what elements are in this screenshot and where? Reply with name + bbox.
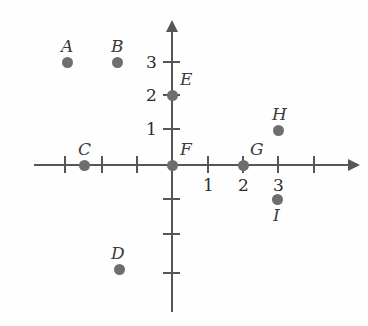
point-g <box>238 160 249 171</box>
x-tick--2 <box>101 156 103 173</box>
x-axis-arrow-icon <box>348 159 360 171</box>
coordinate-plane-figure: 1 2 3 1 2 3 A B C D E F G H I <box>0 0 368 326</box>
x-tick-3 <box>277 156 279 173</box>
point-i <box>272 194 283 205</box>
point-label-d: D <box>111 245 125 262</box>
y-tick--1 <box>163 198 180 200</box>
point-label-a: A <box>61 38 73 55</box>
point-h <box>273 125 284 136</box>
point-b <box>112 57 123 68</box>
x-tick-label-1: 1 <box>203 177 214 194</box>
point-label-i: I <box>273 207 280 224</box>
point-label-h: H <box>272 106 287 123</box>
point-a <box>62 57 73 68</box>
y-tick-label-3: 3 <box>146 54 157 71</box>
y-axis-line <box>171 32 173 312</box>
point-f <box>167 160 178 171</box>
x-tick-4 <box>313 156 315 173</box>
point-label-b: B <box>111 38 124 55</box>
point-label-e: E <box>180 71 192 88</box>
y-tick--2 <box>163 233 180 235</box>
point-label-c: C <box>78 141 91 158</box>
y-tick-label-2: 2 <box>146 87 157 104</box>
y-tick--3 <box>163 272 180 274</box>
x-tick-1 <box>207 156 209 173</box>
y-tick-1 <box>163 128 180 130</box>
point-label-f: F <box>180 141 192 158</box>
y-axis-arrow-icon <box>166 20 178 32</box>
point-label-g: G <box>250 141 264 158</box>
x-tick-label-3: 3 <box>273 177 284 194</box>
point-c <box>79 160 90 171</box>
point-d <box>114 264 125 275</box>
x-tick--1 <box>136 156 138 173</box>
x-tick--3 <box>64 156 66 173</box>
point-e <box>167 90 178 101</box>
x-tick-label-2: 2 <box>238 177 249 194</box>
y-tick-3 <box>163 61 180 63</box>
y-tick-label-1: 1 <box>146 121 157 138</box>
